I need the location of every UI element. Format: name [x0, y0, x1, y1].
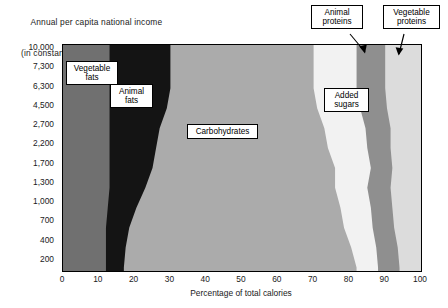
x-tick-label: 20 — [129, 274, 138, 284]
y-tick-label: 400 — [0, 236, 54, 245]
y-tick-label: 10,000 — [0, 43, 54, 52]
chart-root: Annual per capita national income (in co… — [0, 0, 448, 308]
band-label-animal-fats: Animal fats — [110, 84, 153, 108]
band-label-vegetable-proteins: Vegetable proteins — [383, 5, 440, 29]
y-tick-label: 4,500 — [0, 101, 54, 110]
x-axis-title: Percentage of total calories — [62, 288, 420, 298]
x-tick-label: 30 — [165, 274, 174, 284]
y-tick-label: 2,700 — [0, 120, 54, 129]
band-label-animal-proteins: Animal proteins — [311, 5, 363, 29]
y-tick-label: 200 — [0, 255, 54, 264]
y-tick-label: 1,300 — [0, 178, 54, 187]
x-tick-label: 10 — [93, 274, 102, 284]
y-axis-labels: 10,0007,3006,3004,5002,7002,2001,7001,30… — [0, 44, 57, 270]
y-tick-label: 1,700 — [0, 159, 54, 168]
x-axis-labels: 0102030405060708090100 — [62, 274, 420, 286]
band-label-carbohydrates: Carbohydrates — [187, 124, 258, 139]
y-tick-label: 6,300 — [0, 82, 54, 91]
x-tick-label: 40 — [201, 274, 210, 284]
y-tick-label: 1,000 — [0, 197, 54, 206]
chart-title-line1: Annual per capita national income — [31, 17, 163, 27]
y-tick-label: 700 — [0, 216, 54, 225]
x-tick-label: 70 — [308, 274, 317, 284]
x-tick-label: 90 — [380, 274, 389, 284]
x-tick-label: 100 — [413, 274, 427, 284]
x-tick-label: 60 — [272, 274, 281, 284]
band-label-vegetable-fats: Vegetable fats — [66, 61, 118, 85]
x-tick-label: 80 — [344, 274, 353, 284]
x-tick-label: 50 — [236, 274, 245, 284]
x-tick-label: 0 — [60, 274, 65, 284]
y-tick-label: 7,300 — [0, 62, 54, 71]
band-label-added-sugars: Added sugars — [324, 88, 369, 112]
y-tick-label: 2,200 — [0, 139, 54, 148]
